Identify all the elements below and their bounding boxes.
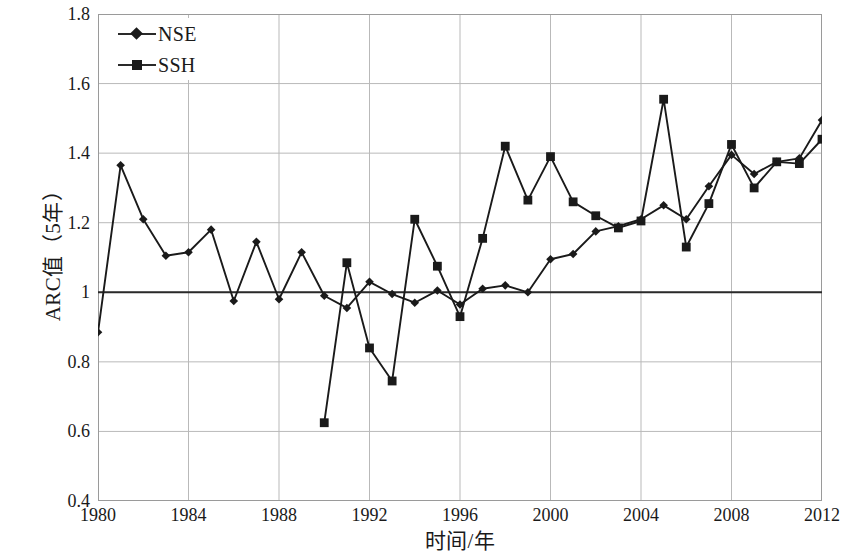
data-point-ssh-1995 — [433, 262, 442, 271]
data-point-ssh-1993 — [388, 377, 397, 386]
data-point-ssh-2001 — [569, 197, 578, 206]
y-tick-label: 1.8 — [34, 4, 90, 25]
data-point-ssh-2009 — [750, 184, 759, 193]
data-point-nse-1986 — [229, 297, 238, 306]
data-point-nse-1981 — [116, 161, 125, 170]
y-tick-label: 0.8 — [34, 351, 90, 372]
data-point-ssh-2010 — [772, 157, 781, 166]
data-point-ssh-2012 — [818, 135, 822, 144]
x-tick-label: 2012 — [787, 505, 841, 526]
data-point-ssh-2000 — [546, 152, 555, 161]
data-point-nse-1987 — [252, 238, 261, 247]
x-tick-label: 2008 — [697, 505, 767, 526]
y-axis-tick-labels: 0.40.60.811.21.41.61.8 — [30, 0, 90, 559]
data-point-ssh-2008 — [727, 140, 736, 149]
data-point-ssh-1992 — [365, 344, 374, 353]
data-point-nse-1989 — [297, 248, 306, 257]
data-point-ssh-1999 — [523, 196, 532, 205]
data-point-nse-1983 — [162, 251, 171, 260]
y-tick-label: 1 — [34, 282, 90, 303]
data-point-ssh-1997 — [478, 234, 487, 243]
data-point-ssh-2004 — [637, 217, 646, 226]
x-tick-label: 2004 — [606, 505, 676, 526]
legend-entry-nse: NSE — [118, 20, 197, 48]
x-tick-label: 1980 — [63, 505, 133, 526]
legend-label-nse: NSE — [156, 23, 197, 46]
y-tick-label: 1.6 — [34, 73, 90, 94]
data-point-ssh-1991 — [342, 258, 351, 267]
data-point-ssh-2002 — [591, 211, 600, 220]
chart-canvas — [98, 14, 822, 501]
data-point-nse-1988 — [275, 295, 284, 304]
legend-label-ssh: SSH — [156, 54, 196, 77]
data-point-nse-2005 — [659, 201, 668, 210]
data-point-ssh-2007 — [704, 199, 713, 208]
data-point-ssh-1998 — [501, 142, 510, 151]
x-tick-label: 1988 — [244, 505, 314, 526]
legend-marker-square-icon — [118, 58, 156, 72]
data-point-ssh-1996 — [456, 312, 465, 321]
data-point-ssh-2003 — [614, 224, 623, 233]
data-point-nse-1993 — [388, 290, 397, 299]
data-point-ssh-2006 — [682, 243, 691, 252]
legend-entry-ssh: SSH — [118, 51, 196, 79]
y-tick-label: 1.2 — [34, 212, 90, 233]
plot-area — [98, 14, 822, 501]
x-axis-title: 时间/年 — [98, 524, 822, 554]
data-point-nse-1980 — [98, 328, 102, 337]
series-line-ssh — [324, 99, 822, 423]
gridlines — [98, 14, 822, 501]
data-point-ssh-2005 — [659, 95, 668, 104]
x-tick-label: 1992 — [335, 505, 405, 526]
data-point-nse-1995 — [433, 286, 442, 295]
legend-marker-diamond-icon — [118, 27, 156, 41]
x-tick-label: 2000 — [516, 505, 586, 526]
data-point-ssh-1990 — [320, 418, 329, 427]
chart-figure: ARC值（5年） 0.40.60.811.21.41.61.8 19801984… — [0, 0, 841, 559]
y-tick-label: 0.6 — [34, 421, 90, 442]
x-tick-label: 1996 — [425, 505, 495, 526]
x-tick-label: 1984 — [154, 505, 224, 526]
data-point-nse-1994 — [410, 298, 419, 307]
chart-legend: NSE SSH — [118, 18, 238, 80]
data-point-ssh-2011 — [795, 159, 804, 168]
series-ssh — [320, 95, 822, 427]
data-point-ssh-1994 — [410, 215, 419, 224]
y-tick-label: 1.4 — [34, 143, 90, 164]
data-point-nse-1998 — [501, 281, 510, 290]
